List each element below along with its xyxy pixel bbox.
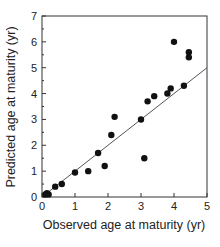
data-point <box>52 183 58 189</box>
y-tick-label: 7 <box>31 10 37 22</box>
y-axis-label: Predicted age at maturity (yr) <box>4 26 18 187</box>
plot-border <box>42 16 207 197</box>
data-points <box>42 39 192 198</box>
x-tick-label: 3 <box>138 200 144 212</box>
x-tick-label: 5 <box>204 200 210 212</box>
data-point <box>144 98 150 104</box>
x-tick-label: 1 <box>72 200 78 212</box>
scatter-chart: 01234501234567 Observed age at maturity … <box>0 0 220 247</box>
x-axis-label: Observed age at maturity (yr) <box>43 218 206 232</box>
data-point <box>45 191 51 197</box>
y-tick-label: 4 <box>31 88 37 100</box>
data-point <box>151 93 157 99</box>
x-tick-label: 4 <box>171 200 177 212</box>
data-point <box>168 85 174 91</box>
y-tick-label: 0 <box>31 191 37 203</box>
data-point <box>72 169 78 175</box>
data-point <box>108 132 114 138</box>
data-point <box>171 39 177 45</box>
x-tick-label: 2 <box>105 200 111 212</box>
axis-ticks <box>42 16 207 197</box>
data-point <box>138 116 144 122</box>
data-point <box>111 114 117 120</box>
axis-tick-labels: 01234501234567 <box>31 10 210 212</box>
data-point <box>59 181 65 187</box>
y-tick-label: 5 <box>31 62 37 74</box>
x-tick-label: 0 <box>39 200 45 212</box>
y-tick-label: 2 <box>31 139 37 151</box>
plot-frame <box>42 16 207 197</box>
data-point <box>181 83 187 89</box>
data-point <box>85 168 91 174</box>
y-tick-label: 6 <box>31 36 37 48</box>
data-point <box>141 155 147 161</box>
y-tick-label: 3 <box>31 113 37 125</box>
data-point <box>102 163 108 169</box>
data-point <box>186 54 192 60</box>
data-point <box>95 150 101 156</box>
y-tick-label: 1 <box>31 165 37 177</box>
